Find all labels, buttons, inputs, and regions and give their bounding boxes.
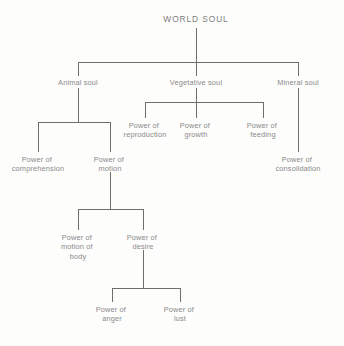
node-world-soul: WORLD SOUL: [163, 14, 228, 24]
node-power-of-anger: Power of anger: [96, 305, 129, 323]
connector-lines: [39, 28, 299, 302]
node-power-of-motion: Power of motion: [94, 155, 127, 173]
node-mineral-soul: Mineral soul: [277, 78, 319, 87]
node-power-of-motion-of-body: Power of motion of body: [61, 233, 95, 261]
hierarchy-diagram: WORLD SOUL Animal soul Vegetative soul M…: [0, 0, 344, 346]
node-power-of-lust: Power of lust: [164, 305, 197, 323]
node-power-of-desire: Power of desire: [127, 233, 160, 251]
tree-svg: WORLD SOUL Animal soul Vegetative soul M…: [0, 0, 344, 346]
node-power-of-growth: Power of growth: [180, 121, 213, 139]
node-power-of-consolidation: Power of consolidation: [275, 155, 320, 173]
node-power-of-comprehension: Power of comprehension: [12, 155, 64, 173]
node-power-of-feeding: Power of feeding: [247, 121, 280, 139]
node-power-of-reproduction: Power of reproduction: [124, 121, 167, 139]
node-animal-soul: Animal soul: [58, 78, 98, 87]
node-vegetative-soul: Vegetative soul: [170, 78, 223, 87]
